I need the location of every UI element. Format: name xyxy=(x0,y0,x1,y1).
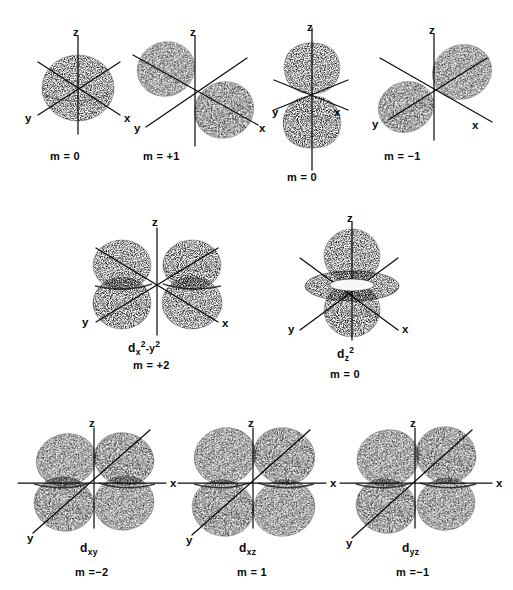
axis-label-z: z xyxy=(152,216,158,228)
m-label-d-yz-orbital: m =−1 xyxy=(396,566,429,578)
p-y-orbital-art xyxy=(371,34,500,141)
p-x-orbital-art xyxy=(129,33,263,148)
axis-label-x: x xyxy=(334,106,341,118)
m-label-d-z2-orbital: m = 0 xyxy=(330,368,360,380)
cropped-caption xyxy=(0,581,513,590)
m-label-p-z-orbital: m = 0 xyxy=(287,171,317,183)
axis-label-x: x xyxy=(124,112,131,124)
axis-label-x: x xyxy=(222,317,229,329)
d-x2-y2-orbital-art xyxy=(93,228,222,335)
orbital-name-sub: xz xyxy=(247,547,257,557)
d-xz-orbital-art xyxy=(178,420,326,544)
orbital-figure: z y x m = 0 z y x m = +1 z y x m = 0 z y… xyxy=(0,0,513,590)
axis-label-z: z xyxy=(73,26,79,38)
p-z-orbital-art xyxy=(274,28,348,170)
m-label-d-xz-orbital: m = 1 xyxy=(237,566,267,578)
d-yz-orbital-art xyxy=(340,420,492,540)
orbital-name-d-xy: dxy xyxy=(80,541,98,557)
orbital-name-d: d xyxy=(239,541,247,555)
orbital-name-sup: 2 xyxy=(349,345,354,355)
axis-label-x: x xyxy=(330,477,337,489)
axis-label-z: z xyxy=(89,417,95,429)
orbital-name-d-xz: dxz xyxy=(239,541,256,557)
axis-label-z: z xyxy=(347,212,353,224)
m-label-s-orbital: m = 0 xyxy=(50,150,80,162)
axis-label-y: y xyxy=(82,316,89,328)
orbital-name-d: d xyxy=(80,541,88,555)
axis-label-y: y xyxy=(346,537,353,549)
axis-label-x: x xyxy=(472,119,479,131)
axis-label-z: z xyxy=(429,24,435,36)
axis-label-y: y xyxy=(288,323,295,335)
orbital-name-d: d xyxy=(128,341,136,355)
axis-label-y: y xyxy=(25,112,32,124)
orbital-name-d: d xyxy=(337,347,345,361)
orbital-name-sup2: 2 xyxy=(155,339,160,349)
d-xy-orbital-art xyxy=(18,427,166,537)
axis-label-x: x xyxy=(170,477,177,489)
axis-label-z: z xyxy=(410,417,416,429)
orbital-name-d-x2-y2: dx2-y2 xyxy=(128,339,160,357)
axis-label-x: x xyxy=(259,122,266,134)
orbital-name-d: d xyxy=(402,541,410,555)
axis-label-x: x xyxy=(496,477,503,489)
m-label-p-x-orbital: m = +1 xyxy=(143,150,180,162)
orbital-name-mid: -y xyxy=(146,343,156,354)
orbital-name-d-yz: dyz xyxy=(402,541,419,557)
axis-label-y: y xyxy=(272,106,279,118)
m-label-d-x2-y2-orbital: m = +2 xyxy=(133,359,170,371)
s-orbital-art xyxy=(38,36,120,134)
axis-label-y: y xyxy=(372,118,379,130)
axis-label-z: z xyxy=(307,21,313,33)
axis-label-x: x xyxy=(402,323,409,335)
axis-label-z: z xyxy=(248,417,254,429)
m-label-d-xy-orbital: m =−2 xyxy=(75,566,108,578)
axis-label-y: y xyxy=(186,534,193,546)
axis-label-y: y xyxy=(134,122,141,134)
orbital-name-d-z2: dz2 xyxy=(337,345,354,363)
m-label-p-y-orbital: m = −1 xyxy=(384,150,421,162)
orbital-artwork xyxy=(0,0,513,590)
orbital-name-sub: xy xyxy=(88,547,98,557)
axis-label-z: z xyxy=(190,26,196,38)
axis-label-y: y xyxy=(27,532,34,544)
d-z2-orbital-art xyxy=(300,222,399,340)
orbital-name-sub: yz xyxy=(410,547,420,557)
